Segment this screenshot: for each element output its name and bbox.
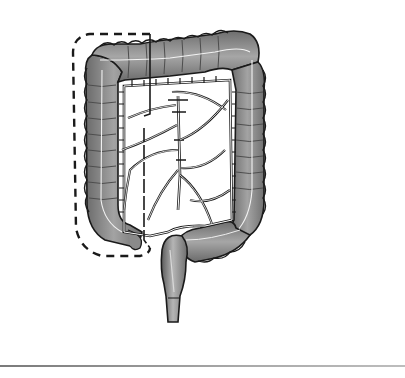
descending-colon (230, 60, 265, 242)
rectum (161, 235, 187, 322)
colon-illustration (0, 0, 405, 378)
mesenteric-vessels (119, 76, 236, 236)
bottom-divider (0, 365, 405, 367)
